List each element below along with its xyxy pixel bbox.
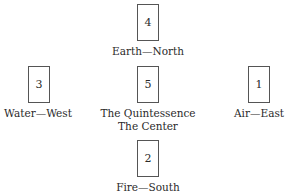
label-center: The Quintessence The Center — [100, 107, 195, 133]
card-east: 1 — [248, 66, 270, 103]
card-west: 3 — [28, 66, 50, 103]
label-center-line1: The Quintessence — [100, 107, 195, 120]
label-north: Earth—North — [112, 45, 184, 58]
card-number: 3 — [36, 78, 43, 91]
card-center: 5 — [137, 66, 159, 103]
card-number: 2 — [145, 152, 152, 165]
card-south: 2 — [137, 140, 159, 177]
label-center-line2: The Center — [100, 120, 195, 133]
label-east: Air—East — [234, 107, 284, 120]
card-number: 1 — [256, 78, 263, 91]
card-number: 5 — [145, 78, 152, 91]
card-number: 4 — [145, 16, 152, 29]
label-south: Fire—South — [116, 181, 180, 194]
label-west: Water—West — [4, 107, 72, 120]
card-north: 4 — [137, 4, 159, 41]
